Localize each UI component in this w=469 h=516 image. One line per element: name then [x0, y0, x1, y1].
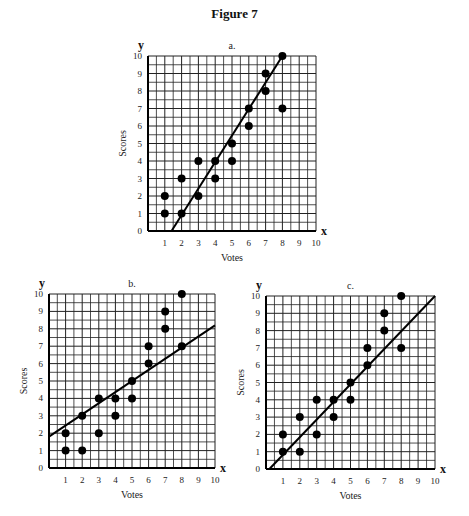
y-tick-label: 9 — [39, 306, 44, 316]
y-tick-label: 4 — [39, 393, 44, 403]
data-point — [62, 429, 70, 437]
y-tick-label: 0 — [256, 464, 261, 474]
y-tick-label: 9 — [138, 69, 143, 79]
data-point — [178, 175, 186, 183]
y-tick-label: 7 — [256, 343, 261, 353]
x-tick-label: 4 — [213, 238, 218, 248]
data-point — [296, 413, 304, 421]
scatter-panel-1: 12345678910012345678910xya.VotesScores — [117, 38, 327, 263]
y-tick-label: 7 — [39, 341, 44, 351]
x-tick-label: 5 — [130, 475, 135, 485]
x-tick-label: 1 — [281, 476, 286, 486]
x-tick-label: 4 — [331, 476, 336, 486]
x-tick-label: 7 — [163, 475, 168, 485]
data-point — [161, 210, 169, 218]
data-point — [161, 192, 169, 200]
scatter-panel-3: 12345678910012345678910xyc.VotesScores — [235, 278, 446, 501]
y-axis-label: Scores — [235, 369, 246, 396]
y-tick-label: 5 — [39, 376, 44, 386]
y-tick-label: 2 — [256, 429, 261, 439]
data-point — [380, 327, 388, 335]
x-tick-label: 8 — [399, 476, 404, 486]
x-tick-label: 6 — [247, 238, 252, 248]
y-tick-label: 3 — [256, 412, 261, 422]
x-tick-label: 6 — [365, 476, 370, 486]
data-point — [278, 52, 286, 60]
data-point — [313, 430, 321, 438]
y-tick-label: 6 — [256, 360, 261, 370]
panel-title: b. — [128, 278, 136, 289]
x-tick-label: 9 — [297, 238, 302, 248]
x-tick-label: 10 — [211, 475, 221, 485]
data-point — [78, 447, 86, 455]
x-axis-label: Votes — [221, 252, 243, 263]
x-tick-label: 7 — [263, 238, 268, 248]
y-tick-label: 7 — [138, 104, 143, 114]
x-tick-label: 3 — [97, 475, 102, 485]
x-tick-label: 2 — [298, 476, 303, 486]
y-tick-label: 8 — [39, 324, 44, 334]
data-point — [330, 413, 338, 421]
x-tick-label: 7 — [382, 476, 387, 486]
y-axis-letter: y — [256, 278, 262, 292]
x-tick-label: 3 — [314, 476, 319, 486]
x-axis-label: Votes — [339, 490, 361, 501]
y-tick-label: 1 — [256, 447, 261, 457]
y-tick-label: 0 — [39, 463, 44, 473]
data-point — [245, 122, 253, 130]
panel-title: c. — [347, 280, 354, 291]
y-tick-label: 10 — [133, 51, 143, 61]
y-tick-label: 8 — [256, 326, 261, 336]
x-tick-label: 4 — [113, 475, 118, 485]
data-point — [111, 394, 119, 402]
data-point — [397, 344, 405, 352]
data-point — [111, 412, 119, 420]
y-tick-label: 5 — [138, 139, 143, 149]
y-tick-label: 2 — [138, 191, 143, 201]
y-tick-label: 8 — [138, 86, 143, 96]
data-point — [161, 307, 169, 315]
x-tick-label: 8 — [180, 475, 185, 485]
data-point — [178, 342, 186, 350]
data-point — [78, 412, 86, 420]
data-point — [330, 396, 338, 404]
y-tick-label: 1 — [138, 209, 143, 219]
data-point — [245, 105, 253, 113]
data-point — [380, 309, 388, 317]
data-point — [145, 342, 153, 350]
x-axis-letter: x — [321, 224, 327, 238]
data-point — [62, 447, 70, 455]
y-tick-label: 10 — [251, 291, 261, 301]
y-axis-letter: y — [39, 276, 45, 290]
x-tick-label: 10 — [431, 476, 441, 486]
figure-canvas: 12345678910012345678910xya.VotesScores12… — [0, 0, 469, 516]
x-tick-label: 10 — [312, 238, 322, 248]
x-tick-label: 3 — [196, 238, 201, 248]
data-point — [278, 105, 286, 113]
y-tick-label: 4 — [138, 156, 143, 166]
x-tick-label: 2 — [80, 475, 85, 485]
data-point — [397, 292, 405, 300]
data-point — [194, 157, 202, 165]
x-tick-label: 6 — [146, 475, 151, 485]
x-tick-label: 1 — [63, 475, 68, 485]
y-tick-label: 9 — [256, 308, 261, 318]
data-point — [178, 210, 186, 218]
x-tick-label: 1 — [163, 238, 168, 248]
y-tick-label: 5 — [256, 378, 261, 388]
data-point — [313, 396, 321, 404]
y-tick-label: 2 — [39, 428, 44, 438]
y-axis-label: Scores — [117, 130, 128, 157]
y-tick-label: 3 — [138, 174, 143, 184]
data-point — [363, 361, 371, 369]
y-axis-letter: y — [138, 38, 144, 52]
panel-title: a. — [229, 40, 236, 51]
x-tick-label: 9 — [196, 475, 201, 485]
data-point — [279, 430, 287, 438]
x-axis-letter: x — [440, 462, 446, 476]
data-point — [178, 290, 186, 298]
data-point — [279, 448, 287, 456]
data-point — [95, 429, 103, 437]
data-point — [347, 396, 355, 404]
data-point — [128, 377, 136, 385]
